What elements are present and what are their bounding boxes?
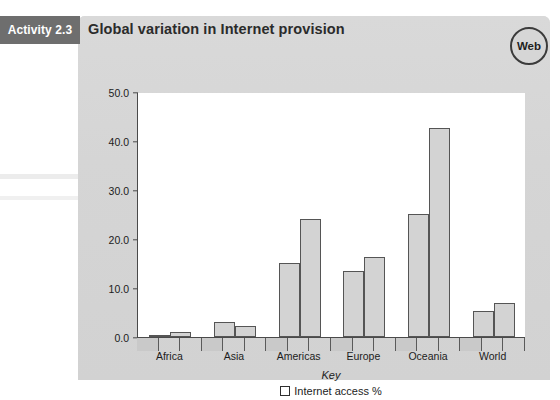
bar [408, 214, 429, 337]
x-axis-labels: AfricaAsiaAmericasEuropeOceaniaWorld [137, 350, 525, 366]
y-axis-tick-label: 50.0 [109, 87, 129, 99]
bar [235, 326, 256, 337]
web-badge[interactable]: Web [510, 27, 548, 65]
bar [149, 335, 170, 337]
y-axis-tick-mark [133, 92, 138, 93]
y-axis-tick-label: 30.0 [109, 185, 129, 197]
plot-area: 0.010.020.030.040.050.0 [137, 93, 525, 338]
x-axis-label: Asia [224, 350, 244, 362]
bar [473, 311, 494, 337]
y-axis-tick-mark [133, 190, 138, 191]
bar [300, 219, 321, 337]
bar [279, 263, 300, 337]
page-title: Global variation in Internet provision [88, 21, 345, 37]
y-axis-tick-mark [133, 288, 138, 289]
key-title: Key [137, 369, 525, 382]
scan-artifact-band [0, 174, 78, 179]
bar [214, 322, 235, 337]
y-axis-tick-mark [133, 141, 138, 142]
key-swatch-icon [280, 386, 290, 396]
bar-chart: 0.010.020.030.040.050.0 AfricaAsiaAmeric… [90, 82, 542, 380]
y-axis-tick-label: 0.0 [114, 332, 129, 344]
bar [429, 128, 450, 337]
x-axis-label: Oceania [408, 350, 447, 362]
y-axis-tick-mark [133, 239, 138, 240]
activity-tab: Activity 2.3 [0, 16, 80, 44]
bar [494, 303, 515, 337]
scan-artifact-band [0, 196, 78, 200]
chart-key: Key Internet access % [137, 369, 525, 400]
bar [364, 257, 385, 337]
x-axis-label: Europe [346, 350, 380, 362]
key-entry-label: Internet access % [294, 384, 381, 398]
y-axis-tick-label: 40.0 [109, 136, 129, 148]
y-axis-tick-label: 20.0 [109, 234, 129, 246]
x-axis-label: World [479, 350, 506, 362]
x-axis-label: Africa [156, 350, 183, 362]
bar [170, 332, 191, 337]
key-entry: Internet access % [280, 384, 381, 398]
bar [343, 271, 364, 337]
x-axis-label: Americas [277, 350, 321, 362]
y-axis-tick-label: 10.0 [109, 283, 129, 295]
